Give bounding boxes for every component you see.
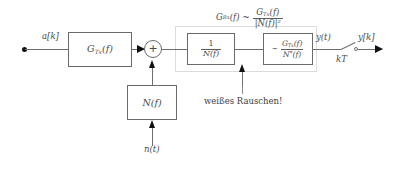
- relation-tilde: ~: [240, 13, 253, 22]
- block-whitening-filter: 1 N(f): [187, 33, 235, 65]
- wire-whitening-to-matched: [235, 49, 263, 50]
- noise-callout-tick: [242, 86, 243, 94]
- whitening-numerator: 1: [206, 40, 215, 48]
- input-signal-label: a[k]: [42, 32, 59, 41]
- block-tx-filter: GTx(f): [68, 32, 132, 67]
- block-whitening-fraction: 1 N(f): [201, 40, 221, 57]
- grx-sub: Rx: [223, 15, 230, 21]
- block-noise-shaping: N(f): [127, 85, 177, 120]
- wire-matched-to-sampler: [313, 49, 341, 50]
- summing-junction: +: [144, 40, 162, 58]
- wire-noise-callout-pointer: [242, 72, 243, 86]
- adder-plus-sign: +: [148, 43, 157, 54]
- block-tx-filter-label: GTx(f): [87, 44, 113, 55]
- block-matched-filter: ~ GTx(f) N*(f): [263, 33, 313, 65]
- block-matched-filter-label: ~ GTx(f) N*(f): [272, 40, 305, 58]
- white-noise-callout-text: weißes Rauschen!: [204, 96, 282, 106]
- block-noise-shaping-label: N(f): [142, 98, 161, 108]
- grx-fraction-numerator: GTx(f): [254, 8, 281, 18]
- arrowhead-output: [375, 45, 383, 53]
- gtx-arg: (f): [270, 7, 280, 17]
- matched-numerator: GTx(f): [280, 40, 304, 49]
- wire-input-to-tx-filter: [25, 49, 68, 50]
- sampling-interval-label: kT: [336, 55, 347, 64]
- block-diagram-canvas: GRx(f) ~ GTx(f) |N(f)|² a[k] GTx(f) + 1 …: [0, 0, 394, 170]
- wire-adder-to-whitening: [162, 49, 187, 50]
- output-discrete-label: y[k]: [358, 33, 375, 42]
- output-continuous-label: y(t): [316, 33, 331, 42]
- wire-noise-to-adder: [152, 66, 153, 85]
- matched-tilde: ~: [272, 45, 280, 53]
- matched-fraction: GTx(f) N*(f): [280, 40, 304, 58]
- matched-denominator: N*(f): [281, 49, 303, 58]
- whitening-denominator: N(f): [201, 49, 221, 58]
- grx-fraction-denominator: |N(f)|²: [253, 18, 283, 28]
- grx-main: G: [216, 13, 223, 22]
- arrowhead-into-noise-block: [149, 120, 155, 128]
- receiver-transfer-annotation: GRx(f) ~ GTx(f) |N(f)|²: [216, 8, 283, 27]
- noise-input-label: n(t): [144, 145, 160, 154]
- arrowhead-into-adder-vertical: [149, 60, 155, 68]
- grx-fraction: GTx(f) |N(f)|²: [253, 8, 283, 27]
- arrowhead-noise-callout: [239, 64, 245, 72]
- grx-arg: (f): [230, 13, 240, 22]
